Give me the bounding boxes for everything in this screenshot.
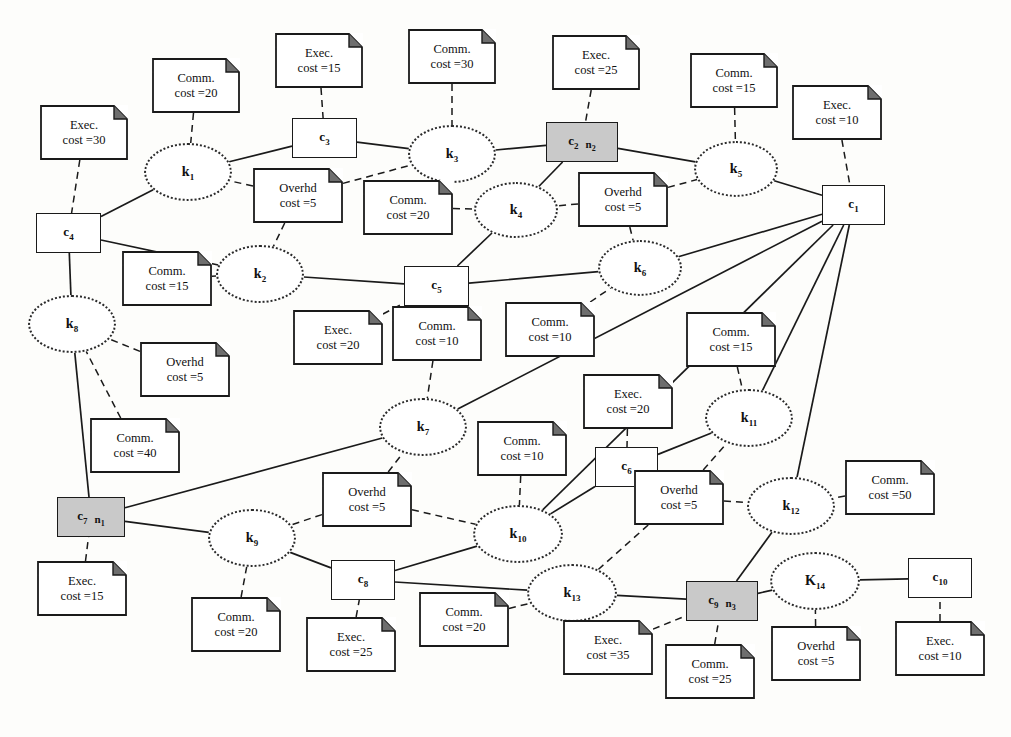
component-c4[interactable]: c4 [36,213,101,253]
component-c10[interactable]: c10 [908,558,972,598]
component-c7[interactable]: c7n1 [57,497,125,537]
note-link [427,361,433,398]
note-n_c10_exec[interactable]: Exec.cost =10 [895,621,985,676]
graph-edge [304,277,404,284]
kernel-label: k10 [510,526,527,542]
kernel-k10[interactable]: k10 [473,505,563,563]
note-n_k7_comm[interactable]: Comm.cost =10 [392,306,482,361]
component-label: c7 [77,508,87,526]
note-kind: Exec. [68,574,96,589]
note-link [724,501,747,503]
graph-edge [357,142,409,149]
note-link [72,160,80,213]
component-c3[interactable]: c3 [292,118,357,158]
note-n_k5_comm[interactable]: Comm.cost =15 [690,53,778,108]
kernel-k14[interactable]: K14 [770,552,860,610]
component-c2[interactable]: c2n2 [546,122,618,162]
note-cost: cost =10 [816,113,859,128]
component-c8[interactable]: c8 [331,560,395,600]
note-n_c4_exec[interactable]: Exec.cost =30 [40,105,128,160]
component-label: c1 [848,196,858,214]
kernel-k6[interactable]: k6 [598,240,682,296]
note-n_k8_comm[interactable]: Comm.cost =15 [122,251,212,306]
note-n_c9_exec[interactable]: Exec.cost =35 [563,620,653,675]
note-n_c3_exec[interactable]: Exec.cost =15 [275,33,363,88]
note-link [191,113,194,143]
note-link [598,525,648,570]
kernel-label: K14 [805,573,825,589]
note-n_k9_comm[interactable]: Comm.cost =20 [191,597,281,652]
note-n_c8_exec[interactable]: Exec.cost =25 [306,617,396,672]
component-label: c3 [319,129,329,147]
kernel-k5[interactable]: k5 [694,141,778,197]
note-kind: Comm. [531,315,568,330]
kernel-k9[interactable]: k9 [208,509,296,567]
note-kind: Exec. [305,46,333,61]
note-n_c7_exec[interactable]: Exec.cost =15 [37,561,127,616]
note-n_k12_comm[interactable]: Comm.cost =50 [845,460,935,515]
graph-edge [229,146,292,162]
component-c9[interactable]: c9n3 [686,581,758,621]
kernel-label: k7 [417,419,429,435]
kernel-label: k4 [510,202,522,218]
kernel-k7[interactable]: k7 [379,398,467,456]
note-n_k6_comm[interactable]: Comm.cost =10 [505,302,595,357]
component-c5[interactable]: c5 [404,266,469,306]
note-cost: cost =25 [689,672,732,687]
kernel-k8[interactable]: k8 [28,295,116,353]
note-cost: cost =5 [167,370,204,385]
kernel-k12[interactable]: k12 [747,477,835,535]
note-link [110,339,141,351]
note-kind: Comm. [433,42,470,57]
graph-edge [678,214,822,256]
kernel-label: k11 [741,410,757,426]
note-n_k3_comm[interactable]: Comm.cost =30 [408,29,496,84]
graph-edge [539,162,563,187]
graph-edge [618,148,695,162]
note-cost: cost =15 [713,81,756,96]
note-n_k8_ovh[interactable]: Overhdcost =5 [140,342,230,397]
kernel-label: k8 [66,316,78,332]
note-n_k13_comm[interactable]: Comm.cost =20 [419,592,509,647]
component-label: c2 [568,133,578,151]
note-n_k12_ovh[interactable]: Overhdcost =5 [634,470,724,525]
kernel-k4[interactable]: k4 [474,182,558,238]
note-n_k10_comm[interactable]: Comm.cost =10 [477,421,567,476]
kernel-k13[interactable]: k13 [527,564,617,622]
kernel-label: k13 [564,585,581,601]
note-n_c6_exec[interactable]: Exec.cost =20 [583,374,673,429]
note-n_c2_exec[interactable]: Exec.cost =25 [552,35,640,90]
note-n_k8_comm40[interactable]: Comm.cost =40 [90,418,180,473]
note-cost: cost =10 [416,334,459,349]
graph-edge [469,272,598,283]
note-n_k56_ovh[interactable]: Overhdcost =5 [578,172,668,227]
note-n_c1_exec[interactable]: Exec.cost =10 [792,85,882,140]
note-n_c9_comm[interactable]: Comm.cost =25 [665,644,755,699]
note-cost: cost =20 [215,625,258,640]
note-n_k14_ovh[interactable]: Overhdcost =5 [771,626,861,681]
component-label: c4 [63,224,73,242]
note-n_k7_ovh[interactable]: Overhdcost =5 [322,472,412,527]
note-link [668,180,697,188]
note-n_k11_comm[interactable]: Comm.cost =15 [686,312,776,367]
kernel-k1[interactable]: k1 [144,143,232,201]
note-n_k1_comm[interactable]: Comm.cost =20 [152,58,240,113]
note-link [842,140,850,185]
component-c1[interactable]: c1 [822,185,885,225]
note-n_c5_exec[interactable]: Exec.cost =20 [293,310,383,365]
note-n_k4_comm[interactable]: Comm.cost =20 [363,180,453,235]
graph-edge [658,433,711,454]
note-n_k1k2_ovh[interactable]: Overhdcost =5 [253,168,343,223]
note-link [630,227,633,240]
note-cost: cost =5 [605,200,642,215]
kernel-k3[interactable]: k3 [408,125,496,183]
note-kind: Comm. [715,66,752,81]
kernel-label: k12 [783,498,800,514]
note-cost: cost =5 [661,498,698,513]
note-kind: Exec. [594,633,622,648]
kernel-k11[interactable]: k11 [705,389,793,447]
note-cost: cost =50 [869,488,912,503]
kernel-k2[interactable]: k2 [216,245,304,303]
graph-edge [797,225,849,477]
kernel-label: k3 [446,146,458,162]
